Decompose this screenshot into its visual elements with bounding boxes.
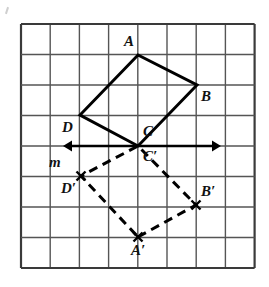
vertex-label-d: D	[62, 120, 73, 135]
mirror-line-arrowhead-right	[212, 141, 221, 152]
vertex-label-d-prime: D′	[61, 181, 76, 196]
vertex-label-c: C	[143, 124, 153, 139]
geometry-figure: ABCDA′B′C′D′m	[0, 0, 269, 287]
vertex-label-b-prime: B′	[201, 184, 215, 199]
vertex-label-a-prime: A′	[131, 243, 145, 258]
mirror-line-arrowhead-left	[63, 141, 72, 152]
vertex-label-c-prime: C′	[143, 149, 157, 164]
vertex-label-a: A	[124, 34, 134, 49]
mirror-line-label-m: m	[49, 155, 61, 170]
vertex-label-b: B	[201, 89, 211, 104]
